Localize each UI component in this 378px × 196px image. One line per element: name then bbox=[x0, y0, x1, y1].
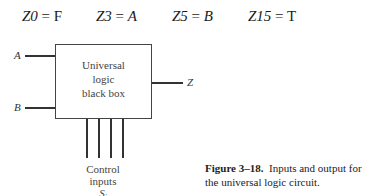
equation-z3: Z3 = A bbox=[96, 8, 137, 25]
output-z-label: Z bbox=[187, 76, 193, 88]
black-box-label: Universal logic black box bbox=[55, 58, 152, 100]
input-b-wire bbox=[25, 107, 55, 109]
figure-caption: Figure 3–18. Inputs and output for the u… bbox=[205, 161, 377, 189]
control-wire-2 bbox=[98, 119, 100, 158]
control-wire-4 bbox=[122, 119, 124, 158]
figure-label: Figure 3–18. bbox=[205, 162, 263, 174]
control-wire-1 bbox=[86, 119, 88, 158]
control-inputs-label: Control inputs Si bbox=[72, 163, 134, 196]
output-z-wire bbox=[152, 82, 183, 84]
control-wire-3 bbox=[110, 119, 112, 158]
equation-z5: Z5 = B bbox=[172, 8, 213, 25]
equation-z15: Z15 = T bbox=[248, 8, 296, 25]
input-a-label: A bbox=[14, 49, 21, 61]
input-b-label: B bbox=[14, 101, 21, 113]
input-a-wire bbox=[25, 55, 55, 57]
equation-z0: Z0 = F bbox=[22, 8, 62, 25]
